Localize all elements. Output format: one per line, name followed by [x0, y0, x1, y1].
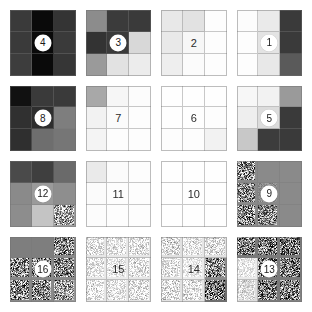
tile-cell	[258, 280, 280, 302]
tile-cell	[129, 161, 151, 183]
tile-cell	[54, 161, 76, 183]
tile-number-badge: 11	[113, 188, 124, 199]
tile-cell	[10, 54, 32, 76]
tile-cell	[86, 258, 108, 280]
tile-5[interactable]: 5	[237, 86, 303, 152]
tile-cell	[161, 280, 183, 302]
tile-number-badge: 1	[261, 34, 278, 51]
tile-cell	[54, 129, 76, 151]
tile-cell	[32, 10, 54, 32]
tile-cell	[86, 32, 108, 54]
tile-cell	[129, 280, 151, 302]
tile-cell	[258, 161, 280, 183]
tile-cell	[183, 205, 205, 227]
tile-cell	[237, 32, 259, 54]
tile-cell	[258, 86, 280, 108]
tile-cell	[10, 183, 32, 205]
cell-noise-texture	[258, 237, 277, 256]
tile-cell	[10, 205, 32, 227]
cell-noise-texture	[86, 258, 105, 277]
tile-cell	[205, 10, 227, 32]
tile-16[interactable]: 16	[10, 237, 76, 303]
tile-number-badge: 7	[115, 113, 121, 124]
cell-noise-texture	[237, 161, 256, 180]
tile-cell	[280, 32, 302, 54]
tile-14[interactable]: 14	[161, 237, 227, 303]
tile-cell	[10, 258, 32, 280]
tile-number-badge: 13	[261, 261, 278, 278]
tile-cell	[86, 54, 108, 76]
tile-cell	[10, 161, 32, 183]
tile-cell	[205, 237, 227, 259]
tile-number-badge: 15	[112, 264, 124, 275]
tile-12[interactable]: 12	[10, 161, 76, 227]
tile-cell	[10, 129, 32, 151]
tile-cell	[161, 258, 183, 280]
tile-cell	[54, 237, 76, 259]
tile-cell	[32, 86, 54, 108]
tile-board: 43218765121110916151413	[0, 0, 312, 312]
tile-cell	[183, 129, 205, 151]
tile-cell	[54, 86, 76, 108]
tile-cell	[86, 183, 108, 205]
tile-15[interactable]: 15	[86, 237, 152, 303]
tile-cell	[86, 129, 108, 151]
tile-cell	[183, 237, 205, 259]
tile-7[interactable]: 7	[86, 86, 152, 152]
tile-1[interactable]: 1	[237, 10, 303, 76]
tile-cell	[205, 32, 227, 54]
cell-noise-texture	[237, 237, 256, 256]
cell-noise-texture	[129, 258, 149, 277]
tile-cell	[129, 54, 151, 76]
tile-10[interactable]: 10	[161, 161, 227, 227]
tile-cell	[161, 32, 183, 54]
tile-cell	[183, 161, 205, 183]
tile-8[interactable]: 8	[10, 86, 76, 152]
tile-cell	[32, 161, 54, 183]
tile-cell	[205, 161, 227, 183]
tile-cell	[86, 107, 108, 129]
tile-9[interactable]: 9	[237, 161, 303, 227]
tile-cell	[237, 258, 259, 280]
cell-noise-texture	[107, 280, 126, 300]
tile-cell	[258, 129, 280, 151]
tile-2[interactable]: 2	[161, 10, 227, 76]
tile-cell	[205, 205, 227, 227]
tile-cell	[237, 86, 259, 108]
tile-cell	[280, 280, 302, 302]
tile-cell	[10, 86, 32, 108]
tile-cell	[205, 183, 227, 205]
tile-cell	[86, 10, 108, 32]
tile-cell	[107, 10, 129, 32]
tile-cell	[86, 161, 108, 183]
tile-13[interactable]: 13	[237, 237, 303, 303]
cell-noise-texture	[183, 280, 202, 300]
tile-4[interactable]: 4	[10, 10, 76, 76]
tile-cell	[205, 258, 227, 280]
tile-cell	[237, 237, 259, 259]
tile-cell	[54, 54, 76, 76]
tile-11[interactable]: 11	[86, 161, 152, 227]
cell-noise-texture	[258, 205, 277, 225]
tile-cell	[205, 280, 227, 302]
tile-cell	[129, 10, 151, 32]
cell-noise-texture	[280, 280, 300, 300]
tile-cell	[10, 280, 32, 302]
tile-6[interactable]: 6	[161, 86, 227, 152]
tile-number-badge: 8	[34, 110, 51, 127]
tile-number-badge: 5	[261, 110, 278, 127]
tile-cell	[32, 237, 54, 259]
tile-cell	[205, 86, 227, 108]
tile-cell	[280, 86, 302, 108]
tile-cell	[161, 107, 183, 129]
tile-cell	[86, 280, 108, 302]
tile-cell	[86, 86, 108, 108]
cell-noise-texture	[237, 280, 256, 300]
tile-cell	[280, 258, 302, 280]
tile-cell	[237, 183, 259, 205]
cell-noise-texture	[54, 237, 74, 256]
cell-noise-texture	[86, 280, 105, 300]
tile-cell	[205, 129, 227, 151]
tile-3[interactable]: 3	[86, 10, 152, 76]
tile-number-badge: 4	[34, 34, 51, 51]
